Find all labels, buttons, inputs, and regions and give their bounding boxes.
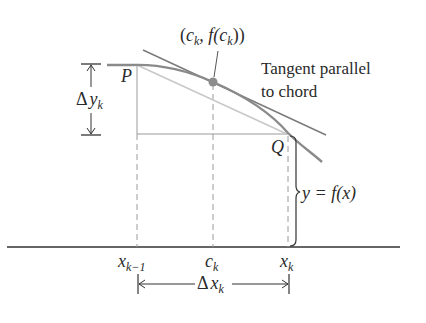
delta-y-var: y bbox=[90, 89, 98, 109]
fx-brace bbox=[290, 136, 300, 246]
delta-x-symbol: Δ bbox=[197, 273, 209, 293]
delta-x-var: x bbox=[211, 273, 219, 293]
tick-ck-var: c bbox=[205, 251, 213, 271]
point-p-label: P bbox=[121, 67, 132, 85]
delta-y-label: Δyk bbox=[76, 90, 103, 108]
tangent-annotation-line2: to chord bbox=[261, 83, 317, 100]
comma-f: , f( bbox=[199, 25, 219, 45]
tick-xk-1-var: x bbox=[118, 251, 126, 271]
delta-x-label: Δxk bbox=[197, 274, 224, 292]
tick-label-xk-1: xk−1 bbox=[118, 252, 145, 270]
tangent-annotation-line1: Tangent parallel bbox=[261, 60, 371, 77]
tick-label-ck: ck bbox=[205, 252, 218, 270]
point-q-label: Q bbox=[271, 138, 284, 156]
tick-ck-sub: k bbox=[213, 260, 218, 274]
tick-xk-sub: k bbox=[288, 260, 293, 274]
delta-y-sub: k bbox=[98, 98, 103, 112]
tangent-point-dot bbox=[209, 78, 218, 87]
delta-x-sub: k bbox=[219, 282, 224, 296]
c2-sub: k bbox=[227, 34, 232, 48]
tangent-point-leader bbox=[214, 51, 218, 77]
paren-close: )) bbox=[233, 25, 245, 45]
delta-y-symbol: Δ bbox=[76, 89, 88, 109]
mvt-diagram: (ck, f(ck)) Tangent parallel to chord P … bbox=[0, 0, 426, 323]
c-sub: k bbox=[194, 34, 199, 48]
tick-xk-1-sub: k−1 bbox=[126, 260, 145, 274]
tangent-point-label: (ck, f(ck)) bbox=[180, 26, 245, 44]
tick-xk-var: x bbox=[280, 251, 288, 271]
c-var: c bbox=[186, 25, 194, 45]
curve-label: y = f(x) bbox=[302, 184, 356, 202]
tick-label-xk: xk bbox=[280, 252, 293, 270]
